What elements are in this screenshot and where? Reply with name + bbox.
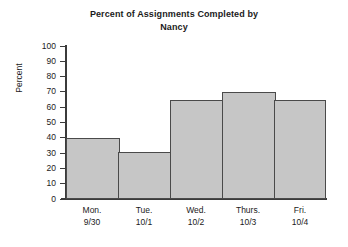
x-tick-date: 10/1 (118, 217, 170, 229)
bar-fri (274, 100, 326, 199)
bar-tue (118, 152, 172, 199)
plot-area (66, 46, 326, 199)
chart-title-line-2: Nancy (160, 22, 188, 32)
x-tick-day: Tue. (136, 205, 153, 215)
x-tick-date: 9/30 (66, 217, 118, 229)
chart-title: Percent of Assignments Completed by Nanc… (0, 8, 348, 33)
chart-title-line-1: Percent of Assignments Completed by (90, 9, 258, 19)
y-tick-label: 10 (16, 179, 56, 188)
x-tick-day: Fri. (294, 205, 306, 215)
x-tick-date: 10/4 (274, 217, 326, 229)
x-tick-label: Tue.10/1 (118, 205, 170, 228)
x-tick-label: Fri.10/4 (274, 205, 326, 228)
bar-mon (66, 138, 120, 199)
x-tick-day: Thurs. (236, 205, 260, 215)
x-tick-day: Wed. (186, 205, 206, 215)
y-tick-label: 20 (16, 164, 56, 173)
x-tick-date: 10/2 (170, 217, 222, 229)
y-tick-label: 90 (16, 57, 56, 66)
x-tick-label: Mon.9/30 (66, 205, 118, 228)
bar-thurs (222, 92, 276, 199)
x-tick-label: Wed.10/2 (170, 205, 222, 228)
bar-wed (170, 100, 224, 199)
bar-chart: Percent of Assignments Completed by Nanc… (0, 0, 348, 247)
y-tick-label: 70 (16, 87, 56, 96)
x-tick-day: Mon. (83, 205, 102, 215)
y-tick-label: 40 (16, 133, 56, 142)
y-tick-label: 80 (16, 72, 56, 81)
y-tick-label: 0 (16, 195, 56, 204)
x-tick-date: 10/3 (222, 217, 274, 229)
y-tick-label: 50 (16, 118, 56, 127)
y-tick-label: 100 (16, 42, 56, 51)
y-tick-label: 30 (16, 149, 56, 158)
x-tick-label: Thurs.10/3 (222, 205, 274, 228)
y-tick-label: 60 (16, 103, 56, 112)
